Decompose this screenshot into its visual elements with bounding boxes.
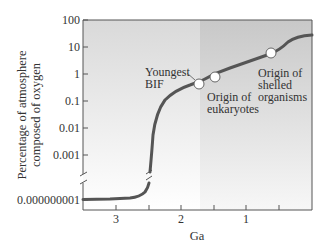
y-axis-title-line1: Percentage of atmosphere (15, 50, 29, 180)
oxygen-chart: 100 10 1 0.1 0.01 0.001 0.000000001 Perc… (0, 0, 327, 251)
x-axis-title: Ga (190, 229, 205, 243)
y-tick-label: 0.000000001 (17, 193, 80, 207)
x-tick-label: 1 (243, 212, 249, 226)
svg-text:BIF: BIF (145, 77, 164, 91)
marker-origin-shelled-organisms (266, 48, 276, 58)
svg-text:eukaryotes: eukaryotes (207, 102, 259, 116)
y-tick-label: 1 (74, 67, 80, 81)
x-tick-label: 2 (178, 212, 184, 226)
y-tick-label: 0.001 (53, 148, 80, 162)
y-axis-title-line2: composed of oxygen (29, 62, 43, 167)
marker-origin-eukaryotes (210, 72, 220, 82)
y-tick-label: 10 (68, 40, 80, 54)
y-tick-label: 0.1 (65, 94, 80, 108)
x-tick-label: 3 (113, 212, 119, 226)
marker-youngest-bif (194, 79, 204, 89)
svg-text:organisms: organisms (258, 90, 307, 104)
y-tick-label: 100 (62, 13, 80, 27)
y-tick-label: 0.01 (59, 121, 80, 135)
